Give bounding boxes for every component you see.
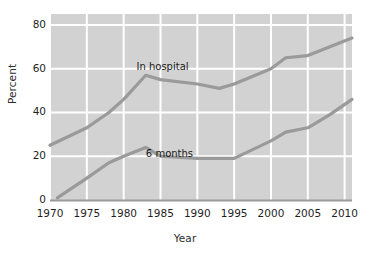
y-tick-20: 20	[12, 150, 46, 161]
series-label-in-hospital: In hospital	[136, 61, 188, 72]
series-label-six-months: 6 months	[146, 148, 193, 159]
x-tick-2010: 2010	[322, 208, 368, 219]
line-chart: 806040200 197019751980198519901995200020…	[0, 0, 370, 256]
y-tick-0: 0	[12, 194, 46, 205]
y-tick-80: 80	[12, 19, 46, 30]
x-axis-title: Year	[0, 232, 370, 244]
x-tick-labels: 197019751980198519901995200020052010	[0, 208, 370, 224]
y-axis-title: Percent	[6, 44, 18, 124]
